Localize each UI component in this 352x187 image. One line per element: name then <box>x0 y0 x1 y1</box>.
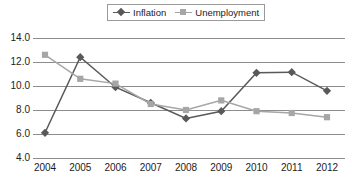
x-axis-tick-label: 2009 <box>210 163 232 173</box>
unemployment-series-marker-icon <box>175 8 192 17</box>
x-axis-tick-label: 2012 <box>316 163 338 173</box>
x-axis-tick-label: 2010 <box>245 163 267 173</box>
y-axis-tick-label: 6.0 <box>0 129 30 139</box>
data-point-square <box>218 97 224 103</box>
y-axis-tick-label: 4.0 <box>0 153 30 163</box>
data-point-diamond <box>182 114 190 122</box>
data-point-diamond <box>41 129 49 137</box>
chart-legend: Inflation Unemployment <box>107 4 265 21</box>
x-axis-tick-label: 2006 <box>104 163 126 173</box>
y-axis: 4.06.08.010.012.014.0 <box>0 0 30 187</box>
legend-item-inflation[interactable]: Inflation <box>113 8 166 18</box>
x-axis-tick-label: 2008 <box>175 163 197 173</box>
series-layer <box>33 38 345 158</box>
y-axis-tick-label: 12.0 <box>0 57 30 67</box>
y-axis-tick-label: 10.0 <box>0 81 30 91</box>
data-point-diamond <box>323 87 331 95</box>
diamond-marker-icon <box>117 8 125 16</box>
data-point-square <box>324 114 330 120</box>
x-axis: 200420052006200720082009201020112012 <box>33 163 345 177</box>
y-axis-tick-label: 14.0 <box>0 33 30 43</box>
data-point-square <box>112 81 118 87</box>
data-point-square <box>289 110 295 116</box>
data-point-diamond <box>288 68 296 76</box>
plot-area <box>33 38 345 158</box>
x-axis-tick-label: 2007 <box>140 163 162 173</box>
x-axis-tick-label: 2005 <box>69 163 91 173</box>
y-axis-tick-label: 8.0 <box>0 105 30 115</box>
legend-label-unemployment: Unemployment <box>195 8 259 18</box>
legend-item-unemployment[interactable]: Unemployment <box>175 8 259 18</box>
inflation-series-marker-icon <box>113 8 130 17</box>
data-point-square <box>42 52 48 58</box>
series-inflation <box>41 53 331 137</box>
data-point-square <box>253 108 259 114</box>
data-point-square <box>183 107 189 113</box>
x-axis-tick-label: 2004 <box>34 163 56 173</box>
data-point-square <box>77 76 83 82</box>
square-marker-icon <box>180 9 186 15</box>
x-axis-tick-label: 2011 <box>281 163 303 173</box>
line-chart: Inflation Unemployment 4.06.08.010.012.0… <box>0 0 352 187</box>
data-point-square <box>148 101 154 107</box>
legend-label-inflation: Inflation <box>133 8 166 18</box>
